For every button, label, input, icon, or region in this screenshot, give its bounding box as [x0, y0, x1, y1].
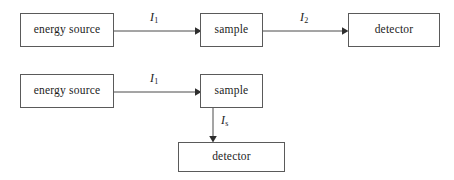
- node-detector-1[interactable]: detector: [348, 13, 440, 47]
- node-label: sample: [215, 85, 249, 97]
- node-sample-1[interactable]: sample: [200, 13, 263, 47]
- node-detector-2[interactable]: detector: [178, 142, 285, 172]
- node-label: detector: [375, 24, 414, 36]
- node-label: detector: [212, 151, 251, 163]
- edge-label-i1-top: I1: [150, 11, 158, 25]
- edge-label-subscript: s: [225, 119, 228, 128]
- edge-label-subscript: 1: [154, 16, 158, 25]
- node-label: sample: [215, 24, 249, 36]
- node-sample-2[interactable]: sample: [200, 74, 263, 108]
- arrow-sample2-to-detector2: [209, 108, 217, 143]
- node-energy-source-1[interactable]: energy source: [20, 13, 114, 47]
- edge-label-i2-top: I2: [300, 11, 308, 25]
- arrow-sample1-to-detector1: [263, 27, 349, 35]
- edge-label-is-vertical: Is: [221, 114, 228, 128]
- edge-label-subscript: 1: [154, 77, 158, 86]
- edge-label-i1-bottom: I1: [150, 72, 158, 86]
- node-energy-source-2[interactable]: energy source: [20, 74, 114, 108]
- node-label: energy source: [34, 85, 101, 97]
- arrow-source2-to-sample2: [114, 88, 202, 96]
- arrow-source1-to-sample1: [114, 27, 202, 35]
- edge-label-subscript: 2: [304, 16, 308, 25]
- block-diagram: energy source sample detector I1 I2 ener…: [0, 0, 454, 180]
- node-label: energy source: [34, 24, 101, 36]
